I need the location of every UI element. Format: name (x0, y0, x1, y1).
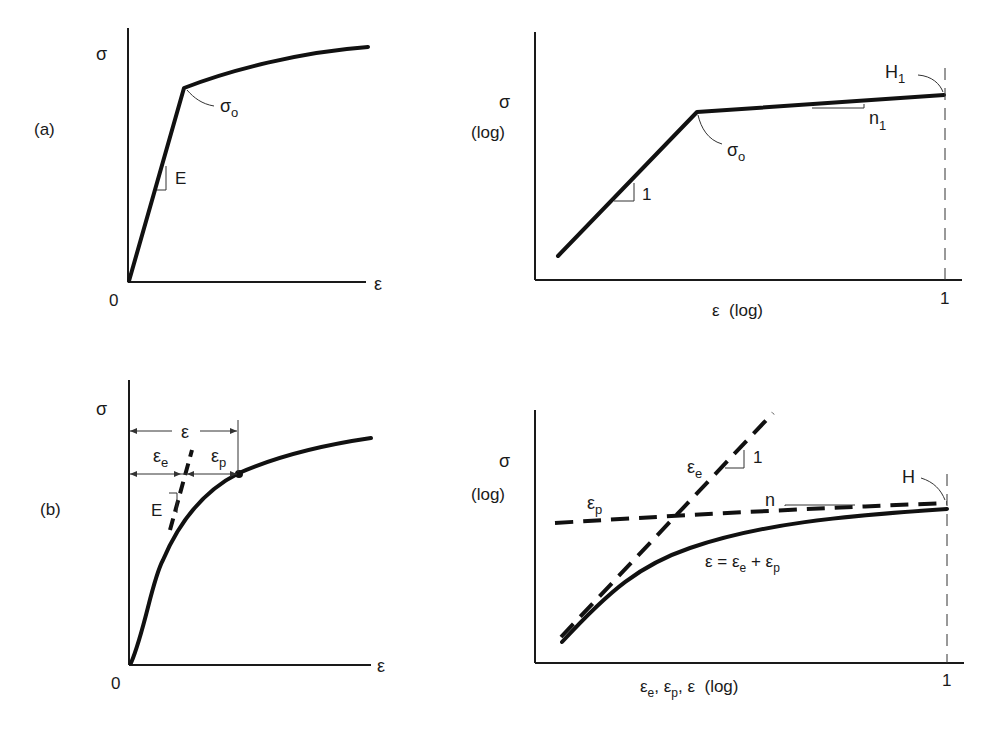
y-axis-log-label: (log) (471, 485, 505, 504)
y-axis-label: σ (96, 44, 107, 64)
plastic-line-label: εp (587, 493, 602, 517)
y-axis-label: σ (499, 92, 510, 112)
elastic-strain-label: εe (153, 446, 168, 470)
yield-arrow (698, 115, 722, 144)
elastic-slope-label: 1 (753, 448, 762, 467)
stress-strain-curve (131, 438, 371, 663)
row-label-a: (a) (34, 120, 55, 139)
panel-b-log: σ (log) εe, εp, ε (log) 1 εe 1 εp n H ε … (471, 410, 964, 700)
plastic-strain-label: εp (211, 446, 226, 470)
panel-a-log: σ (log) ε (log) 1 1 σo n1 H1 (471, 32, 962, 320)
panel-a-linear: σ ε 0 (a) E σo (34, 28, 382, 310)
slope-label-E: E (175, 169, 186, 188)
y-axis-log-label: (log) (471, 123, 505, 142)
yield-stress-label: σo (220, 96, 238, 120)
yield-arrow (187, 90, 214, 106)
stress-strain-diagram: σ ε 0 (a) E σo σ (log) ε (log) 1 1 σo n1… (0, 0, 994, 736)
panel-b-linear: σ ε 0 (b) ε εe εp E (40, 380, 385, 693)
stress-strain-curve (129, 47, 368, 281)
yield-stress-label: σo (727, 140, 745, 164)
x-axis-label: εe, εp, ε (log) (640, 677, 738, 700)
total-strain-label: ε (181, 422, 189, 442)
origin-label: 0 (111, 674, 120, 693)
elastic-strain-line (561, 413, 773, 637)
origin-label: 0 (109, 291, 118, 310)
y-axis-label: σ (96, 399, 107, 419)
elastic-line-label: εe (687, 457, 702, 481)
n1-label: n1 (869, 108, 886, 133)
h1-label: H1 (885, 62, 905, 86)
x-tick-1: 1 (940, 289, 949, 308)
sum-equation-label: ε = εe + εp (705, 552, 780, 575)
slope-label-E: E (151, 501, 162, 520)
h-label: H (902, 467, 915, 487)
h1-arrow (918, 75, 943, 92)
x-axis-label: ε (log) (712, 301, 763, 320)
n-label: n (765, 490, 775, 510)
slope-label-1: 1 (642, 185, 651, 204)
h-arrow (921, 478, 945, 500)
x-axis-label: ε (374, 274, 382, 294)
row-label-b: (b) (40, 500, 61, 519)
x-tick-1: 1 (942, 671, 951, 690)
x-axis-label: ε (377, 656, 385, 676)
y-axis-label: σ (499, 451, 510, 471)
